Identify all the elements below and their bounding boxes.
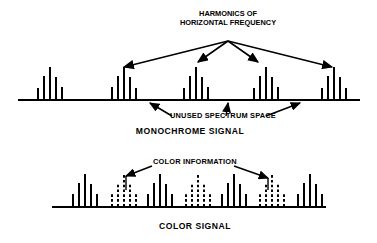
- spectrum-cluster: [38, 67, 62, 100]
- spectrum-graphics: [0, 0, 377, 243]
- spectrum-cluster: [222, 174, 246, 207]
- spectrum-cluster: [260, 175, 284, 207]
- spectrum-cluster: [298, 174, 322, 207]
- color-information-arrow: [126, 166, 152, 176]
- spectrum-cluster: [112, 175, 136, 207]
- unused-spectrum-arrow: [266, 103, 300, 116]
- spectrum-cluster: [184, 67, 208, 100]
- color-panel: [52, 166, 326, 207]
- spectrum-cluster: [186, 175, 210, 207]
- color-information-arrow: [234, 166, 268, 178]
- unused-spectrum-arrow: [150, 103, 172, 116]
- spectrum-cluster: [148, 174, 172, 207]
- spectrum-cluster: [73, 174, 97, 207]
- harmonic-arrow: [124, 41, 228, 67]
- spectrum-cluster: [322, 67, 346, 100]
- spectrum-cluster: [254, 67, 278, 100]
- spectrum-diagram: HARMONICS OF HORIZONTAL FREQUENCY UNUSED…: [0, 0, 377, 243]
- unused-spectrum-arrow: [226, 103, 228, 116]
- spectrum-cluster: [112, 67, 136, 100]
- monochrome-panel: [18, 41, 360, 116]
- harmonic-arrow: [228, 41, 332, 67]
